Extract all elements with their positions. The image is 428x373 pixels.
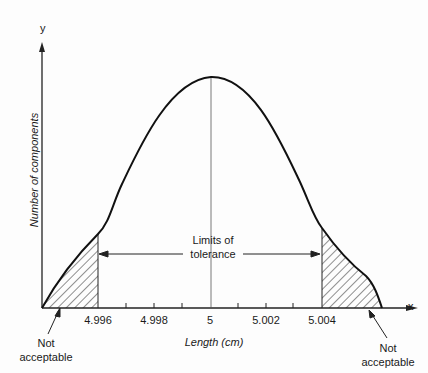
y-axis-title: Number of components bbox=[28, 80, 40, 260]
right-not-acceptable-label: Not acceptable bbox=[352, 341, 424, 369]
tolerance-label: Limits of tolerance bbox=[182, 233, 244, 261]
left-not-acceptable-line2: acceptable bbox=[10, 350, 82, 364]
x-ticks bbox=[126, 303, 293, 308]
y-axis-arrow-icon bbox=[39, 42, 45, 52]
tick-label-4998: 4.998 bbox=[140, 314, 168, 326]
x-axis-label: x bbox=[408, 300, 414, 312]
tick-label-5: 5 bbox=[207, 314, 213, 326]
chart-canvas bbox=[0, 0, 428, 373]
left-reject-region bbox=[42, 234, 98, 308]
left-not-acceptable-line1: Not bbox=[10, 336, 82, 350]
tolerance-label-line2: tolerance bbox=[182, 247, 244, 261]
tolerance-label-line1: Limits of bbox=[182, 233, 244, 247]
right-not-acceptable-line1: Not bbox=[352, 341, 424, 355]
tick-label-5002: 5.002 bbox=[252, 314, 280, 326]
right-not-acceptable-line2: acceptable bbox=[352, 355, 424, 369]
tick-label-5004: 5.004 bbox=[308, 314, 336, 326]
left-not-acceptable-label: Not acceptable bbox=[10, 336, 82, 364]
y-axis-label: y bbox=[40, 22, 46, 34]
tick-label-4996: 4.996 bbox=[84, 314, 112, 326]
